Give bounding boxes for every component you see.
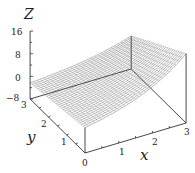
y-tick-1: 1 <box>61 137 67 147</box>
surface-plot: Z 16 8 0 −8 3 2 1 0 y 1 2 3 x <box>0 0 195 173</box>
y-tick-0: 0 <box>82 158 88 168</box>
box-back-edges <box>30 36 186 123</box>
z-tick-neg8: −8 <box>6 93 20 103</box>
z-tick-16: 16 <box>11 27 23 37</box>
z-axis-label: Z <box>23 6 34 22</box>
z-tick-0: 0 <box>15 73 21 83</box>
y-axis-label: y <box>26 128 36 146</box>
surface-mesh <box>30 36 186 128</box>
x-axis-label: x <box>140 146 149 164</box>
x-tick-3: 3 <box>184 127 190 137</box>
z-tick-8: 8 <box>15 50 21 60</box>
x-tick-2: 2 <box>152 137 158 147</box>
x-tick-1: 1 <box>119 147 125 157</box>
y-tick-2: 2 <box>41 119 47 129</box>
y-tick-3: 3 <box>21 100 27 110</box>
